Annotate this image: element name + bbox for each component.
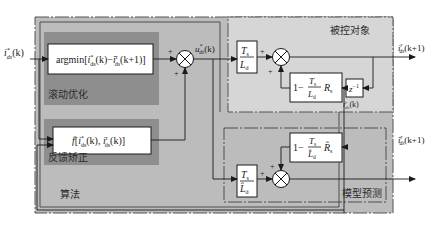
- control-signal-label: u*ds(k): [195, 43, 215, 55]
- mpc-block-diagram: i*ds(k) argmin[i*ds(k)−îrds(k+1)] 滚动优化 f…: [0, 0, 442, 228]
- model-prediction-label: 模型预测: [342, 187, 382, 199]
- plus-sign: +: [268, 67, 273, 76]
- plus-sign: +: [260, 169, 265, 178]
- sum-junction-plant: [273, 49, 290, 66]
- input-signal-label: i*ds(k): [4, 47, 24, 60]
- rolling-optimization-label: 滚动优化: [48, 88, 88, 100]
- plus-sign: +: [174, 69, 179, 78]
- algorithm-label: 算法: [60, 188, 80, 200]
- plus-sign: +: [270, 162, 275, 171]
- plus-sign: +: [260, 47, 265, 56]
- predicted-output-label: îrds(k+1): [398, 134, 424, 146]
- svg-text:1−: 1−: [293, 142, 304, 153]
- plus-sign: +: [168, 47, 173, 56]
- plant-output-label: irds(k+1): [398, 42, 424, 54]
- sum-junction-model: [273, 171, 290, 188]
- feedback-correction-label: 反馈矫正: [48, 151, 88, 163]
- svg-text:1−: 1−: [293, 82, 304, 93]
- sum-junction-control: [177, 51, 194, 68]
- plant-label: 被控对象: [330, 24, 370, 36]
- plant-state-label: irds(k): [343, 100, 359, 110]
